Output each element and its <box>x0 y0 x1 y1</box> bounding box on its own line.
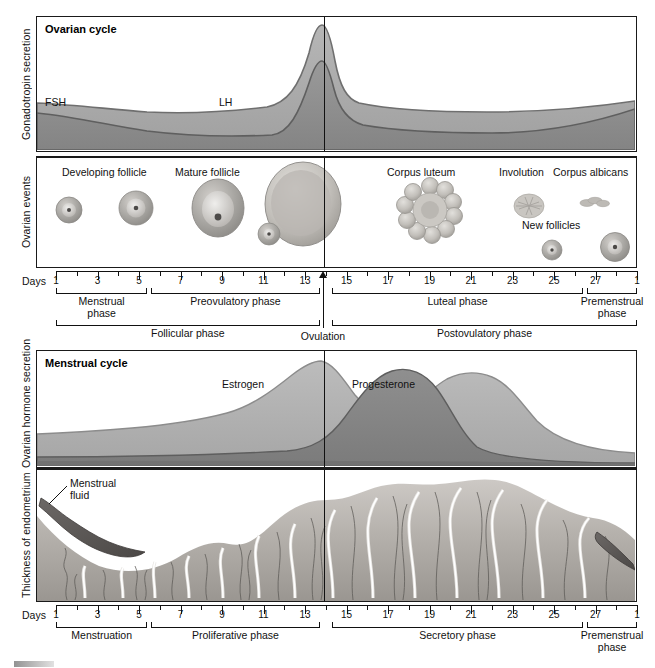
ruler-day-number: 23 <box>507 275 518 286</box>
ruler-tick <box>450 605 451 610</box>
phase-bottom-label: Premenstrual phase <box>581 629 643 653</box>
phase-top-row2-bracket <box>332 320 637 326</box>
ruler-tick <box>201 605 202 610</box>
ruler-tick <box>367 271 368 276</box>
ruler-tick <box>326 605 327 610</box>
ruler-day-number: 1 <box>53 275 59 286</box>
ruler-top: 135791113151719212325271 <box>56 271 637 287</box>
gonadotropin-curves <box>37 17 635 150</box>
axis-label-ovarian-events: Ovarian events <box>20 156 34 268</box>
phase-top-row1-label: Preovulatory phase <box>190 295 280 307</box>
ovarian-event-label-corpus-albicans: Corpus albicans <box>553 166 628 178</box>
ruler-tick <box>575 271 576 276</box>
ovulation-marker-stem <box>323 278 325 328</box>
ruler-tick <box>492 271 493 276</box>
ruler-day-number: 5 <box>136 275 142 286</box>
ruler-tick <box>284 271 285 276</box>
ruler-day-number: 21 <box>465 609 476 620</box>
figure-root: Gonadotropin secretion Ovarian cycle FSH… <box>0 0 655 668</box>
ruler-tick <box>160 271 161 276</box>
ruler-bottom: 135791113151719212325271 <box>56 605 637 621</box>
ruler-day-number: 9 <box>219 275 225 286</box>
ruler-tick <box>492 605 493 610</box>
ruler-tick <box>575 605 576 610</box>
axis-label-ovarian-hormone: Ovarian hormone secretion <box>20 350 34 468</box>
ruler-day-number: 15 <box>341 609 352 620</box>
ruler-day-number: 7 <box>178 609 184 620</box>
ovulation-line-top <box>324 17 325 151</box>
phase-bottom-label: Secretory phase <box>419 629 495 641</box>
ruler-day-number: 11 <box>258 609 268 620</box>
ruler-day-number: 27 <box>590 609 601 620</box>
ovarian-event-label-new-follicles: New follicles <box>522 219 580 231</box>
ruler-day-number: 5 <box>136 609 142 620</box>
phase-bottom-bracket <box>56 622 147 628</box>
phase-top-row1-bracket <box>56 288 147 294</box>
ruler-tick <box>243 605 244 610</box>
ovulation-line-hormone <box>324 351 325 467</box>
phase-top-row1-label: Luteal phase <box>427 295 487 307</box>
ruler-day-number: 21 <box>465 275 476 286</box>
ruler-tick <box>409 271 410 276</box>
phase-top-row1-bracket <box>587 288 637 294</box>
ruler-day-number: 17 <box>382 609 393 620</box>
ovarian-event-label-mature-follicle: Mature follicle <box>175 166 240 178</box>
phase-top-row2-label: Follicular phase <box>151 327 225 339</box>
phase-top-row1-label: Menstrual phase <box>79 295 125 319</box>
ovulation-marker-arrow <box>319 271 327 278</box>
ruler-tick <box>243 271 244 276</box>
ovarian-event-label-involution: Involution <box>499 166 544 178</box>
phase-bottom-label: Menstruation <box>71 629 132 641</box>
ruler-day-number: 19 <box>424 275 435 286</box>
phase-bottom-bracket <box>151 622 319 628</box>
axis-label-endometrium: Thickness of endometrium <box>20 468 34 602</box>
phase-bottom-bracket <box>587 622 637 628</box>
phase-top-row1-bracket <box>332 288 583 294</box>
ruler-day-number: 1 <box>634 609 640 620</box>
phase-top-row2-label: Postovulatory phase <box>437 327 532 339</box>
ovarian-event-label-corpus-luteum: Corpus luteum <box>387 166 455 178</box>
curve-label-lh: LH <box>219 96 232 108</box>
ruler-day-number: 25 <box>548 609 559 620</box>
days-label-top: Days <box>22 275 46 287</box>
ovarian-event-label-developing-follicle: Developing follicle <box>62 166 147 178</box>
ruler-day-number: 13 <box>299 609 310 620</box>
ruler-day-number: 3 <box>95 275 101 286</box>
ruler-tick <box>616 271 617 276</box>
ruler-tick <box>284 605 285 610</box>
curve-label-fsh: FSH <box>45 96 66 108</box>
ruler-day-number: 7 <box>178 275 184 286</box>
ovulation-line-endometrium <box>324 470 325 602</box>
ruler-tick <box>118 271 119 276</box>
panel-gonadotropin: Ovarian cycle FSH LH <box>36 16 637 152</box>
ruler-day-number: 15 <box>341 275 352 286</box>
ruler-tick <box>201 271 202 276</box>
panel-ovarian-events: Developing follicle Mature follicle Corp… <box>36 156 637 268</box>
ruler-tick <box>160 605 161 610</box>
ruler-tick <box>118 605 119 610</box>
ruler-day-number: 23 <box>507 609 518 620</box>
ruler-tick <box>77 271 78 276</box>
phase-top-row1-bracket <box>151 288 319 294</box>
ruler-tick <box>533 271 534 276</box>
phase-bottom-label: Proliferative phase <box>192 629 279 641</box>
ruler-day-number: 17 <box>382 275 393 286</box>
phase-top-row2-bracket <box>56 320 320 326</box>
phase-top-row1-label: Premenstrual phase <box>581 295 643 319</box>
panel-ovarian-hormone: Menstrual cycle Estrogen Progesterone <box>36 350 637 468</box>
endometrium-annotation-menstrual-fluid: Menstrual fluid <box>70 477 116 501</box>
ruler-tick <box>450 271 451 276</box>
endometrium-illustration <box>37 470 635 601</box>
ruler-day-number: 9 <box>219 609 225 620</box>
ruler-day-number: 1 <box>53 609 59 620</box>
panel-endometrium: Menstrual fluid <box>36 468 637 602</box>
curve-label-progesterone: Progesterone <box>352 378 415 390</box>
ruler-day-number: 3 <box>95 609 101 620</box>
ruler-day-number: 25 <box>548 275 559 286</box>
ruler-tick <box>367 605 368 610</box>
panel-title-ovarian-cycle: Ovarian cycle <box>45 23 117 35</box>
ruler-tick <box>77 605 78 610</box>
phase-bottom-bracket <box>332 622 583 628</box>
ruler-day-number: 27 <box>590 275 601 286</box>
panel-title-menstrual-cycle: Menstrual cycle <box>45 357 128 369</box>
